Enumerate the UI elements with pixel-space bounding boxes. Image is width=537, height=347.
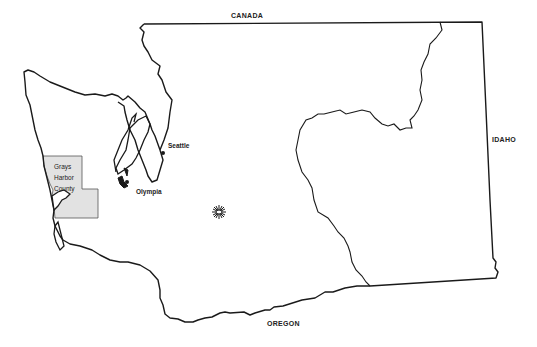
label-olympia: Olympia [136,188,162,195]
county-label-line3: County [54,183,75,194]
puget-sound-inlet [116,116,150,174]
county-label-line1: Grays [54,161,75,172]
washington-map [0,0,537,347]
label-grays-harbor-county: Grays Harbor County [54,161,75,194]
label-oregon: OREGON [267,320,300,327]
state-outline [24,22,498,322]
label-idaho: IDAHO [492,136,516,143]
seattle-dot [161,151,165,155]
label-seattle: Seattle [168,142,189,149]
label-canada: CANADA [231,12,263,19]
county-label-line2: Harbor [54,172,75,183]
olympia-dot [125,180,129,184]
columbia-river [296,22,442,286]
willapa-bay-inlet [54,222,64,250]
compass-rose-icon [212,205,226,219]
